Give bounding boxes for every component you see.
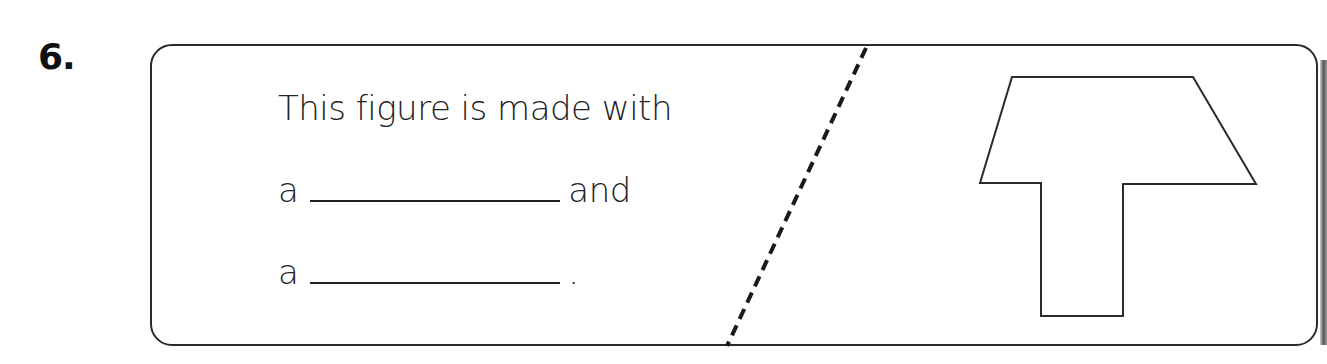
figure-layer <box>0 0 1327 364</box>
dashed-divider <box>727 48 866 346</box>
t-shape-figure <box>980 77 1256 316</box>
